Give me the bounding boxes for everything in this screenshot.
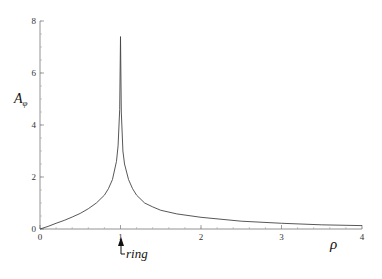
y-tick-label: 8	[32, 16, 37, 26]
y-tick-label: 0	[32, 224, 37, 234]
y-tick-label: 6	[32, 68, 37, 78]
x-tick-label: 0	[38, 232, 43, 242]
y-axis-label: Aφ	[13, 91, 28, 108]
y-ticks: 02468	[32, 16, 45, 234]
ring-label: ring	[126, 246, 148, 261]
y-tick-label: 2	[32, 172, 37, 182]
x-ticks: 01234	[38, 225, 365, 242]
chart: 01234 02468 Aφ ρ ring	[0, 0, 382, 279]
x-tick-label: 4	[360, 232, 365, 242]
x-tick-label: 3	[279, 232, 284, 242]
y-tick-label: 4	[32, 120, 37, 130]
x-axis-label: ρ	[329, 236, 337, 252]
data-series-line	[40, 37, 362, 229]
x-tick-label: 2	[199, 232, 204, 242]
axes	[40, 21, 362, 229]
